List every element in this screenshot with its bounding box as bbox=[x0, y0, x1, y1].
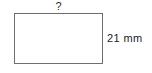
rectangle-dimension-diagram: ? 21 mm bbox=[0, 0, 152, 73]
width-label-unknown: ? bbox=[14, 0, 103, 13]
rectangle-shape bbox=[14, 13, 103, 64]
height-label-21mm: 21 mm bbox=[107, 31, 143, 46]
